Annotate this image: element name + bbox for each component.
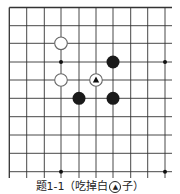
black-stone-icon bbox=[107, 92, 120, 105]
triangle-marked-stone-icon: ▲ bbox=[109, 181, 121, 193]
white-stone-icon bbox=[55, 74, 68, 87]
star-point-icon bbox=[59, 170, 63, 174]
caption-suffix: 子） bbox=[122, 180, 144, 193]
white-stone-icon bbox=[55, 37, 68, 50]
star-point-icon bbox=[163, 60, 167, 64]
black-stone-icon bbox=[73, 92, 86, 105]
problem-caption: 题1-1（吃掉白▲子） bbox=[0, 180, 180, 194]
black-stone-icon bbox=[107, 56, 120, 69]
go-board bbox=[0, 0, 180, 180]
star-point-icon bbox=[59, 60, 63, 64]
caption-prefix: 题1-1（吃掉白 bbox=[36, 180, 109, 193]
star-point-icon bbox=[163, 170, 167, 174]
